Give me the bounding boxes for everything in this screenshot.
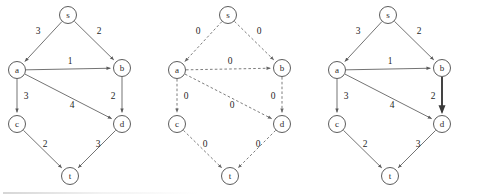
edge-weight-b-d: 2	[431, 91, 436, 101]
graph-panel-zero-initialized-graph: 00000000sabcdt	[169, 7, 291, 185]
graph-panel-highlighted-path-graph: 32134223sabcdt	[329, 7, 451, 185]
edge-weight-s-a: 3	[356, 26, 361, 36]
node-label-c: c	[15, 119, 19, 129]
edge-weight-d-t: 3	[416, 139, 421, 149]
three-panel-graph-figure: 32134223sabcdt00000000sabcdt32134223sabc…	[0, 0, 477, 196]
edge-s-a	[345, 22, 382, 62]
edge-a-d	[25, 74, 112, 119]
node-label-a: a	[15, 65, 19, 75]
edge-weight-c-t: 2	[363, 139, 368, 149]
graph-svg-canvas: 32134223sabcdt00000000sabcdt32134223sabc…	[0, 0, 477, 196]
edge-weight-a-b: 1	[388, 56, 393, 66]
edge-weight-a-b: 1	[68, 56, 73, 66]
node-label-s: s	[66, 10, 70, 20]
node-label-d: d	[280, 119, 285, 129]
edge-s-a	[185, 22, 222, 62]
edge-a-b	[186, 68, 270, 70]
edge-s-a	[25, 22, 62, 62]
edge-weight-s-a: 3	[36, 26, 41, 36]
edge-weight-a-d: 4	[390, 100, 395, 110]
edge-weight-a-c: 3	[24, 91, 29, 101]
edge-weight-s-a: 0	[196, 26, 201, 36]
node-label-d: d	[440, 119, 445, 129]
edge-s-b	[234, 21, 273, 60]
edge-weight-d-t: 0	[256, 139, 261, 149]
edge-weight-a-c: 0	[184, 91, 189, 101]
edge-weight-b-d: 0	[271, 91, 276, 101]
edge-weight-a-d: 4	[70, 100, 75, 110]
node-label-s: s	[386, 10, 390, 20]
edge-a-d	[185, 74, 272, 119]
edge-weight-c-t: 2	[43, 139, 48, 149]
edge-weight-s-b: 0	[257, 26, 262, 36]
edge-weight-s-b: 2	[97, 26, 102, 36]
edge-weight-a-b: 0	[228, 56, 233, 66]
edge-weight-d-t: 3	[96, 139, 101, 149]
edge-s-b	[394, 21, 433, 60]
edge-weight-c-t: 0	[203, 139, 208, 149]
node-label-b: b	[280, 63, 285, 73]
node-label-a: a	[335, 65, 339, 75]
node-label-b: b	[120, 63, 125, 73]
node-label-c: c	[175, 119, 179, 129]
edge-a-d	[345, 74, 432, 119]
node-label-s: s	[226, 10, 230, 20]
node-label-d: d	[120, 119, 125, 129]
edge-weight-s-b: 2	[417, 26, 422, 36]
node-label-b: b	[440, 63, 445, 73]
edge-s-b	[74, 21, 113, 60]
edge-a-b	[346, 68, 430, 70]
edge-a-b	[26, 68, 110, 70]
scan-artifact-smudge	[3, 192, 199, 194]
edge-weight-a-c: 3	[344, 91, 349, 101]
edge-weight-b-d: 2	[111, 91, 116, 101]
node-label-c: c	[335, 119, 339, 129]
edge-weight-a-d: 0	[230, 100, 235, 110]
graph-panel-original-weighted-graph: 32134223sabcdt	[9, 7, 131, 185]
node-label-a: a	[175, 65, 179, 75]
